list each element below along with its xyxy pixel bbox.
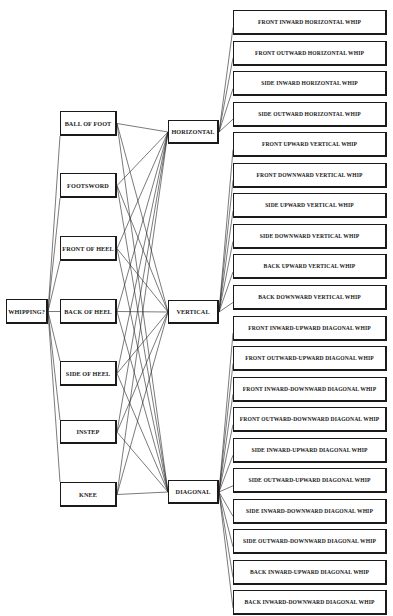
- contact-node-ball-of-foot: BALL OF FOOT: [60, 111, 117, 136]
- whip-node-side-inward-downward-diagonal-whip: SIDE INWARD-DOWNWARD DIAGONAL WHIP: [233, 499, 387, 524]
- whip-node-side-upward-vertical-whip: SIDE UPWARD VERTICAL WHIP: [233, 193, 387, 218]
- plane-node-vertical: VERTICAL: [168, 300, 219, 324]
- whip-node-side-inward-horizontal-whip: SIDE INWARD HORIZONTAL WHIP: [233, 71, 387, 96]
- contact-node-instep: INSTEP: [60, 420, 117, 444]
- connector-line: [117, 492, 168, 495]
- connector-line: [219, 150, 233, 312]
- connector-line: [219, 394, 233, 492]
- contact-node-footsword: FOOTSWORD: [60, 173, 117, 198]
- connector-line: [117, 132, 168, 495]
- connector-line: [48, 198, 60, 312]
- connector-line: [117, 374, 168, 493]
- contact-node-front-of-heel: FRONT OF HEEL: [60, 236, 117, 261]
- connector-line: [219, 302, 233, 312]
- connector-line: [117, 312, 168, 374]
- connector-line: [117, 186, 168, 313]
- connector-line: [219, 28, 233, 133]
- connector-line: [219, 492, 233, 608]
- connector-line: [219, 364, 233, 492]
- contact-node-back-of-heel: BACK OF HEEL: [60, 299, 117, 324]
- whip-node-front-upward-vertical-whip: FRONT UPWARD VERTICAL WHIP: [233, 132, 387, 157]
- root-node-whipping: WHIPPING?: [6, 299, 48, 324]
- whip-node-side-downward-vertical-whip: SIDE DOWNWARD VERTICAL WHIP: [233, 224, 387, 249]
- whip-node-back-inward-downward-diagonal-whip: BACK INWARD-DOWNWARD DIAGONAL WHIP: [233, 590, 387, 615]
- connector-line: [219, 333, 233, 492]
- contact-node-knee: KNEE: [60, 482, 117, 507]
- connector-line: [117, 132, 168, 249]
- whip-node-front-inward-horizontal-whip: FRONT INWARD HORIZONTAL WHIP: [233, 10, 387, 35]
- whip-node-side-outward-upward-diagonal-whip: SIDE OUTWARD-UPWARD DIAGONAL WHIP: [233, 468, 387, 493]
- whip-node-front-outward-downward-diagonal-whip: FRONT OUTWARD-DOWNWARD DIAGONAL WHIP: [233, 407, 387, 432]
- whip-node-front-outward-horizontal-whip: FRONT OUTWARD HORIZONTAL WHIP: [233, 41, 387, 66]
- whip-node-front-inward-downward-diagonal-whip: FRONT INWARD-DOWNWARD DIAGONAL WHIP: [233, 377, 387, 402]
- plane-node-diagonal: DIAGONAL: [168, 480, 219, 504]
- whip-node-back-downward-vertical-whip: BACK DOWNWARD VERTICAL WHIP: [233, 285, 387, 310]
- connector-line: [219, 211, 233, 312]
- whip-node-front-inward-upward-diagonal-whip: FRONT INWARD-UPWARD DIAGONAL WHIP: [233, 316, 387, 341]
- connector-line: [219, 492, 233, 547]
- contact-node-side-of-heel: SIDE OF HEEL: [60, 361, 117, 386]
- whipping-taxonomy-diagram: WHIPPING? BALL OF FOOT FOOTSWORD FRONT O…: [0, 0, 393, 616]
- whip-node-side-outward-horizontal-whip: SIDE OUTWARD HORIZONTAL WHIP: [233, 102, 387, 127]
- connector-line: [219, 492, 233, 577]
- plane-node-horizontal: HORIZONTAL: [168, 120, 219, 144]
- connector-line: [48, 312, 60, 421]
- connector-line: [117, 124, 168, 133]
- connector-line: [219, 241, 233, 312]
- whip-node-side-inward-upward-diagonal-whip: SIDE INWARD-UPWARD DIAGONAL WHIP: [233, 438, 387, 463]
- whip-node-front-downward-vertical-whip: FRONT DOWNWARD VERTICAL WHIP: [233, 163, 387, 188]
- whip-node-back-inward-upward-diagonal-whip: BACK INWARD-UPWARD DIAGONAL WHIP: [233, 560, 387, 585]
- whip-node-back-upward-vertical-whip: BACK UPWARD VERTICAL WHIP: [233, 254, 387, 279]
- whip-node-side-outward-downward-diagonal-whip: SIDE OUTWARD-DOWNWARD DIAGONAL WHIP: [233, 529, 387, 554]
- whip-node-front-outward-upward-diagonal-whip: FRONT OUTWARD-UPWARD DIAGONAL WHIP: [233, 346, 387, 371]
- connector-line: [219, 425, 233, 492]
- connector-line: [117, 312, 168, 432]
